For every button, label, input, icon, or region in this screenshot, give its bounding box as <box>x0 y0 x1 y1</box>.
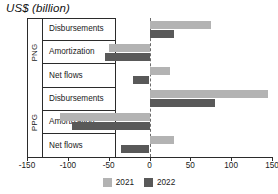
bar-2021-png-disbursements <box>150 21 211 29</box>
x-tick-label-150: 150 <box>265 161 278 170</box>
group-label-ppg: PPG <box>28 88 42 158</box>
bar-2021-ppg-net-flows <box>150 136 175 144</box>
chart-legend: 2021 2022 <box>0 178 278 187</box>
category-axis-table: PNG Disbursements Amortization Net flows… <box>27 18 116 157</box>
chart-container: US$ (billion) PNG Disbursements Amortiza… <box>0 0 278 194</box>
chart-title: US$ (billion) <box>6 2 70 14</box>
x-tick-label-0: 0 <box>147 161 152 170</box>
bar-2022-png-amortization <box>105 53 150 61</box>
plot-area: PNG Disbursements Amortization Net flows… <box>27 18 272 157</box>
bar-2021-png-net-flows <box>150 67 170 75</box>
category-label-ppg-disbursements: Disbursements <box>43 88 115 111</box>
bar-2022-png-net-flows <box>133 76 149 84</box>
bar-2021-ppg-amortization <box>60 113 150 121</box>
bar-group-ppg-amortization <box>116 111 272 134</box>
bar-group-ppg-disbursements <box>116 88 272 111</box>
group-label-png: PNG <box>28 18 42 88</box>
category-label-ppg-net-flows: Net flows <box>43 134 115 157</box>
category-label-png-disbursements: Disbursements <box>43 18 115 41</box>
group-png: PNG Disbursements Amortization Net flows <box>28 18 115 88</box>
legend-swatch-2022-icon <box>144 178 153 187</box>
bar-2021-png-amortization <box>109 44 150 52</box>
legend-label-2022: 2022 <box>157 178 175 187</box>
bar-group-png-net-flows <box>116 64 272 87</box>
bar-2022-ppg-disbursements <box>150 99 215 107</box>
bar-group-png-amortization <box>116 41 272 64</box>
x-tick-label-neg150: -150 <box>19 161 35 170</box>
bar-group-png-disbursements <box>116 18 272 41</box>
x-tick-label-100: 100 <box>224 161 238 170</box>
legend-swatch-2021-icon <box>103 178 112 187</box>
bar-2022-ppg-net-flows <box>121 145 150 153</box>
bar-2022-ppg-amortization <box>72 122 150 130</box>
legend-item-2021: 2021 <box>103 178 134 187</box>
category-label-png-net-flows: Net flows <box>43 64 115 87</box>
group-label-ppg-text: PPG <box>31 114 40 132</box>
bar-2021-ppg-disbursements <box>150 90 268 98</box>
group-label-png-text: PNG <box>31 44 40 62</box>
bar-group-ppg-net-flows <box>116 134 272 157</box>
bar-2022-png-disbursements <box>150 30 175 38</box>
x-tick-label-neg50: -50 <box>103 161 115 170</box>
x-tick-label-neg100: -100 <box>60 161 76 170</box>
x-tick-label-50: 50 <box>186 161 195 170</box>
legend-item-2022: 2022 <box>144 178 175 187</box>
legend-label-2021: 2021 <box>116 178 134 187</box>
bars-layer <box>116 18 272 157</box>
